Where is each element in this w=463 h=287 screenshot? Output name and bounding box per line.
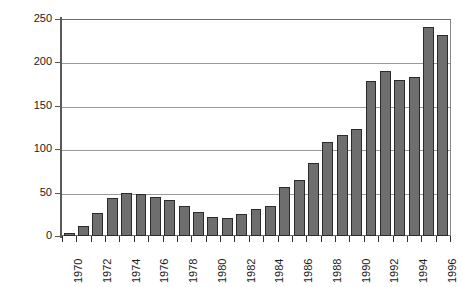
x-tick — [364, 236, 365, 242]
x-tick — [407, 236, 408, 242]
bar-1988 — [322, 142, 333, 236]
x-tick-label-1990: 1990 — [361, 259, 372, 283]
bar-1989 — [337, 135, 348, 236]
x-tick-label-1974: 1974 — [131, 259, 142, 283]
x-tick — [134, 236, 135, 242]
bar-1990 — [351, 129, 362, 236]
x-tick — [191, 236, 192, 242]
bar-1981 — [222, 218, 233, 236]
y-tick-100 — [55, 149, 62, 150]
x-tick-label-1976: 1976 — [159, 259, 170, 283]
x-tick-label-1982: 1982 — [246, 259, 257, 283]
bar-1972 — [92, 213, 103, 236]
bar-1986 — [294, 180, 305, 236]
y-tick-label: 100 — [0, 143, 52, 154]
y-tick-label-text: 0 — [4, 230, 52, 241]
y-tick-200 — [55, 62, 62, 63]
bar-1993 — [394, 80, 405, 236]
x-tick — [378, 236, 379, 242]
bar-1994 — [409, 77, 420, 236]
x-tick — [393, 236, 394, 242]
y-tick-label: 50 — [0, 187, 52, 198]
x-tick — [249, 236, 250, 242]
x-tick — [335, 236, 336, 242]
y-tick-label-text: 200 — [4, 56, 52, 67]
bar-1996 — [437, 35, 448, 236]
y-tick-label: 200 — [0, 56, 52, 67]
bar-1977 — [164, 200, 175, 236]
bar-1975 — [136, 194, 147, 236]
x-tick — [119, 236, 120, 242]
x-tick — [278, 236, 279, 242]
x-axis-labels: 1970197219741976197819801982198419861988… — [62, 245, 450, 287]
x-tick — [206, 236, 207, 242]
x-tick-label-1972: 1972 — [102, 259, 113, 283]
y-tick-150 — [55, 106, 62, 107]
bar-1985 — [279, 187, 290, 236]
bar-1983 — [251, 209, 262, 236]
x-tick-label-1986: 1986 — [303, 259, 314, 283]
x-tick-label-1996: 1996 — [447, 259, 458, 283]
bar-chart: 050100150200250 197019721974197619781980… — [0, 0, 463, 287]
x-tick — [263, 236, 264, 242]
bar-1984 — [265, 206, 276, 236]
bar-1980 — [207, 217, 218, 236]
x-tick — [306, 236, 307, 242]
y-tick-label-text: 250 — [4, 13, 52, 24]
y-tick-label: 0 — [0, 230, 52, 241]
x-tick-label-1992: 1992 — [389, 259, 400, 283]
bar-1971 — [78, 226, 89, 236]
y-tick-label-text: 50 — [4, 187, 52, 198]
x-tick — [163, 236, 164, 242]
x-tick — [105, 236, 106, 242]
x-tick — [436, 236, 437, 242]
bar-1978 — [179, 206, 190, 236]
x-tick-label-1980: 1980 — [217, 259, 228, 283]
x-tick-label-1984: 1984 — [274, 259, 285, 283]
y-tick-label: 150 — [0, 100, 52, 111]
x-tick — [62, 236, 63, 242]
x-tick — [321, 236, 322, 242]
x-tick — [349, 236, 350, 242]
x-tick — [220, 236, 221, 242]
x-tick-label-1994: 1994 — [418, 259, 429, 283]
x-tick-label-1970: 1970 — [73, 259, 84, 283]
x-tick — [292, 236, 293, 242]
y-tick-label-text: 100 — [4, 143, 52, 154]
y-tick-label: 250 — [0, 13, 52, 24]
bar-1992 — [380, 71, 391, 236]
bar-1995 — [423, 27, 434, 236]
x-tick — [421, 236, 422, 242]
bar-1982 — [236, 214, 247, 236]
x-tick — [76, 236, 77, 242]
y-tick-250 — [55, 19, 62, 20]
bar-1987 — [308, 163, 319, 236]
bars-layer — [62, 19, 450, 236]
bar-1976 — [150, 197, 161, 236]
x-tick — [450, 236, 451, 242]
bar-1973 — [107, 198, 118, 236]
x-tick-label-1988: 1988 — [332, 259, 343, 283]
x-tick-label-1978: 1978 — [188, 259, 199, 283]
y-tick-0 — [55, 236, 62, 237]
y-tick-50 — [55, 193, 62, 194]
x-tick — [148, 236, 149, 242]
y-tick-label-text: 150 — [4, 100, 52, 111]
bar-1991 — [366, 81, 377, 236]
x-axis-ticks — [62, 236, 450, 244]
x-tick — [234, 236, 235, 242]
bar-1979 — [193, 212, 204, 236]
x-tick — [177, 236, 178, 242]
bar-1974 — [121, 193, 132, 236]
x-tick — [91, 236, 92, 242]
